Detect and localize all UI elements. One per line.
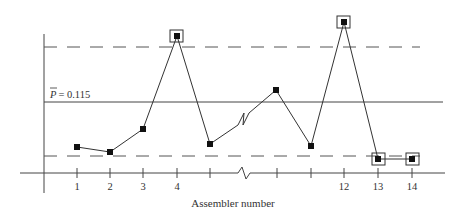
x-axis-title: Assembler number bbox=[191, 197, 275, 209]
point-6 bbox=[273, 87, 279, 93]
x-tick-labels: 1 2 3 4 12 13 14 bbox=[74, 181, 418, 192]
axis-break-symbol bbox=[238, 167, 250, 179]
tick-label-2: 2 bbox=[107, 181, 112, 192]
tick-label-12: 12 bbox=[339, 181, 350, 192]
point-4 bbox=[174, 33, 180, 39]
tick-label-3: 3 bbox=[140, 181, 145, 192]
data-line-left bbox=[77, 36, 238, 152]
data-line-break bbox=[238, 113, 249, 125]
point-14 bbox=[409, 156, 415, 162]
center-line-label: P= 0.115 bbox=[49, 89, 90, 100]
data-points bbox=[74, 19, 415, 162]
tick-label-1: 1 bbox=[74, 181, 79, 192]
tick-label-14: 14 bbox=[407, 181, 418, 192]
point-1 bbox=[74, 144, 80, 150]
control-chart: 1 2 3 4 12 13 14 Assembler number P= 0.1… bbox=[0, 0, 466, 217]
tick-label-13: 13 bbox=[373, 181, 384, 192]
chart-svg: 1 2 3 4 12 13 14 Assembler number P= 0.1… bbox=[0, 0, 466, 217]
point-13 bbox=[375, 156, 381, 162]
point-2 bbox=[107, 149, 113, 155]
point-12 bbox=[341, 19, 347, 25]
point-7 bbox=[308, 143, 314, 149]
point-3 bbox=[140, 126, 146, 132]
point-5 bbox=[207, 141, 213, 147]
tick-label-4: 4 bbox=[174, 181, 180, 192]
